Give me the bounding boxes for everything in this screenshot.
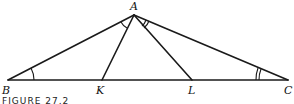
figure-caption: FIGURE 27.2: [2, 97, 69, 104]
angle-b-arc: [31, 68, 34, 80]
vertex-label-a: A: [130, 1, 138, 12]
segment-ak: [102, 15, 134, 80]
vertex-label-k: K: [96, 85, 104, 96]
diagram-canvas: [0, 0, 294, 104]
vertex-label-b: B: [2, 85, 10, 96]
segment-ab: [8, 15, 134, 80]
angle-c-arc-outer: [256, 68, 258, 80]
vertex-label-c: C: [284, 85, 292, 96]
vertex-label-l: L: [188, 85, 195, 96]
segment-ac: [134, 15, 288, 80]
angle-c-arc-inner: [259, 69, 261, 80]
triangle-diagram: A B K L C FIGURE 27.2: [0, 0, 294, 104]
angle-bak-arc: [121, 22, 127, 28]
